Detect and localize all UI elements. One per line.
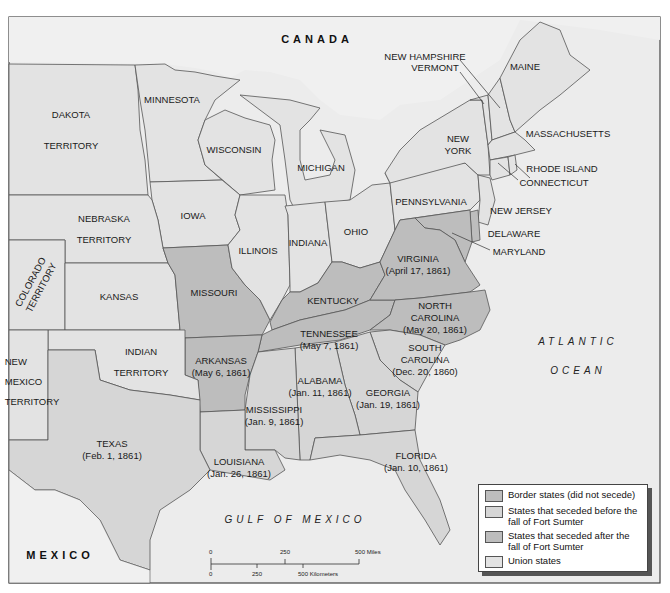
alabama-label: ALABAMA (Jan. 11, 1861) <box>288 375 351 399</box>
dakota-label-line2: TERRITORY <box>44 140 99 152</box>
michigan-label: MICHIGAN <box>297 162 345 174</box>
indian-territory-label-line1: INDIAN <box>114 346 169 358</box>
south-carolina-label-line2: CAROLINA <box>392 354 457 366</box>
legend-item-union-states: Union states <box>485 555 641 568</box>
pennsylvania-label: PENNSYLVANIA <box>395 196 466 208</box>
georgia-label-line1: GEORGIA <box>356 387 420 399</box>
new-mexico-label-line2: MEXICO <box>5 376 60 388</box>
nebraska-label: NEBRASKA TERRITORY <box>77 213 132 246</box>
new-jersey-label: NEW JERSEY <box>490 205 552 217</box>
ohio-label: OHIO <box>344 226 368 238</box>
mississippi-label: MISSISSIPPI (Jan. 9, 1861) <box>245 404 304 428</box>
indiana-label: INDIANA <box>289 237 328 249</box>
virginia-label-line1: VIRGINIA <box>386 253 451 265</box>
texas-label: TEXAS (Feb. 1, 1861) <box>82 438 142 462</box>
canada-label: CANADA <box>281 33 353 45</box>
south-carolina-label: SOUTH CAROLINA (Dec. 20, 1860) <box>392 342 457 378</box>
new-york-label-line2: YORK <box>445 145 472 157</box>
legend-swatch <box>485 506 503 518</box>
new-york-label-line1: NEW <box>445 133 472 145</box>
georgia-label: GEORGIA (Jan. 19, 1861) <box>356 387 420 411</box>
arkansas-label: ARKANSAS (May 6, 1861) <box>192 355 251 379</box>
legend-swatch <box>485 490 503 502</box>
illinois-label: ILLINOIS <box>238 245 277 257</box>
north-carolina-label-line3: (May 20, 1861) <box>403 324 467 336</box>
legend-label: States that seceded after the fall of Fo… <box>508 530 641 552</box>
texas-label-line2: (Feb. 1, 1861) <box>82 450 142 462</box>
north-carolina-label: NORTH CAROLINA (May 20, 1861) <box>403 300 467 336</box>
minnesota-label: MINNESOTA <box>144 94 200 106</box>
legend-item-border-states: Border states (did not secede) <box>485 489 641 502</box>
maryland-label: MARYLAND <box>493 246 546 258</box>
legend-label: States that seceded before the fall of F… <box>508 505 641 527</box>
vermont-label: VERMONT <box>411 62 459 74</box>
scale-miles-500: 500 Miles <box>355 549 381 555</box>
gulf-of-mexico-label: GULF OF MEXICO <box>224 514 365 525</box>
legend-item-seceded-before: States that seceded before the fall of F… <box>485 505 641 527</box>
maine-label: MAINE <box>510 61 540 73</box>
map-legend: Border states (did not secede) States th… <box>478 484 648 572</box>
kansas-label: KANSAS <box>100 291 139 303</box>
georgia-label-line2: (Jan. 19, 1861) <box>356 399 420 411</box>
arkansas-label-line2: (May 6, 1861) <box>192 367 251 379</box>
legend-label: Union states <box>508 555 561 566</box>
ocean-label: OCEAN <box>550 365 606 376</box>
louisiana-label: LOUISIANA (Jan. 26, 1861) <box>207 456 271 480</box>
iowa-label: IOWA <box>181 210 206 222</box>
scale-miles-250: 250 <box>280 549 290 555</box>
wisconsin-label: WISCONSIN <box>207 144 262 156</box>
north-carolina-label-line1: NORTH <box>403 300 467 312</box>
tennessee-label: TENNESSEE (May 7, 1861) <box>300 328 359 352</box>
new-mexico-label-line1: NEW <box>5 356 60 368</box>
florida-label: FLORIDA (Jan. 10, 1861) <box>384 450 448 474</box>
south-carolina-label-line1: SOUTH <box>392 342 457 354</box>
massachusetts-label: MASSACHUSETTS <box>526 128 610 140</box>
south-carolina-label-line3: (Dec. 20, 1860) <box>392 366 457 378</box>
nebraska-label-line1: NEBRASKA <box>77 213 132 225</box>
legend-item-seceded-after: States that seceded after the fall of Fo… <box>485 530 641 552</box>
missouri-label: MISSOURI <box>191 287 238 299</box>
atlantic-label: ATLANTIC <box>538 336 618 347</box>
scale-km-250: 250 <box>252 571 262 577</box>
alabama-label-line1: ALABAMA <box>288 375 351 387</box>
kentucky-label: KENTUCKY <box>307 295 359 307</box>
connecticut-label: CONNECTICUT <box>519 177 588 189</box>
scale-km-500: 500 Kilometers <box>298 571 338 577</box>
virginia-label: VIRGINIA (April 17, 1861) <box>386 253 451 277</box>
nebraska-label-line2: TERRITORY <box>77 234 132 246</box>
legend-label: Border states (did not secede) <box>508 489 635 500</box>
tennessee-label-line2: (May 7, 1861) <box>300 340 359 352</box>
scale-km-0: 0 <box>209 571 212 577</box>
alabama-label-line2: (Jan. 11, 1861) <box>288 387 351 399</box>
texas-label-line1: TEXAS <box>82 438 142 450</box>
scale-miles-0: 0 <box>209 549 212 555</box>
dakota-label-line1: DAKOTA <box>44 109 99 121</box>
rhode-island-label: RHODE ISLAND <box>526 163 597 175</box>
florida-label-line2: (Jan. 10, 1861) <box>384 462 448 474</box>
mississippi-label-line1: MISSISSIPPI <box>245 404 304 416</box>
delaware-label: DELAWARE <box>488 228 541 240</box>
dakota-label: DAKOTA TERRITORY <box>44 109 99 152</box>
legend-swatch <box>485 556 503 568</box>
florida-label-line1: FLORIDA <box>384 450 448 462</box>
tennessee-label-line1: TENNESSEE <box>300 328 359 340</box>
mississippi-label-line2: (Jan. 9, 1861) <box>245 416 304 428</box>
indian-territory-label-line2: TERRITORY <box>114 367 169 379</box>
arkansas-label-line1: ARKANSAS <box>192 355 251 367</box>
louisiana-label-line2: (Jan. 26, 1861) <box>207 468 271 480</box>
legend-swatch <box>485 531 503 543</box>
new-mexico-label: NEW MEXICO TERRITORY <box>5 356 60 408</box>
virginia-label-line2: (April 17, 1861) <box>386 265 451 277</box>
indian-territory-label: INDIAN TERRITORY <box>114 346 169 379</box>
north-carolina-label-line2: CAROLINA <box>403 312 467 324</box>
louisiana-label-line1: LOUISIANA <box>207 456 271 468</box>
new-mexico-label-line3: TERRITORY <box>5 396 60 408</box>
mexico-label: MEXICO <box>26 549 93 561</box>
new-york-label: NEW YORK <box>445 133 472 157</box>
